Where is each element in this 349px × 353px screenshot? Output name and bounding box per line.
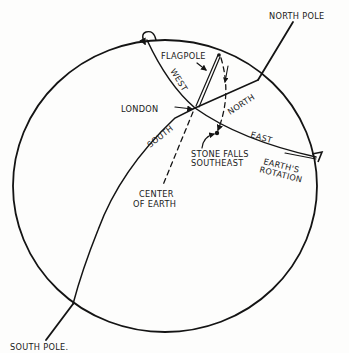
london-label: LONDON [121, 104, 159, 114]
east-label: EAST [249, 129, 274, 145]
south-pole-axis [46, 304, 73, 340]
flagpole-pointer-arrow [197, 63, 206, 70]
center-of-earth-label-line1: CENTER [139, 189, 174, 199]
north-label: NORTH [226, 92, 257, 117]
earth-diagram: NORTH POLE FLAGPOLE LONDON WEST NORTH SO… [0, 0, 349, 353]
rotation-loop-arrow-icon [143, 32, 156, 44]
north-pole-axis [258, 22, 293, 80]
stone-pointer-arrow [202, 134, 214, 148]
center-of-earth-label-line2: OF EARTH [133, 199, 176, 209]
flagpole-label: FLAGPOLE [161, 51, 206, 61]
flagpole-top [217, 53, 221, 57]
flagpole-inner [199, 57, 220, 107]
west-pointer-arrow [225, 66, 228, 82]
stone [215, 131, 219, 135]
earth-globe [13, 40, 317, 332]
flagpole [196, 55, 218, 106]
north-pole-label: NORTH POLE [269, 11, 325, 21]
west-label: WEST [168, 67, 190, 94]
stone-falls-label-line2: SOUTHEAST [191, 158, 244, 168]
south-label: SOUTH [145, 123, 175, 150]
london-pointer-arrow [175, 107, 192, 109]
south-pole-label: SOUTH POLE. [10, 342, 68, 352]
